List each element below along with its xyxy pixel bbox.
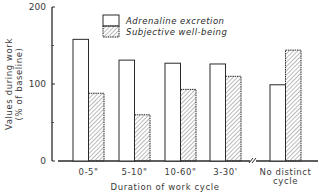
- category-label: 5-10": [121, 167, 147, 177]
- bars: [73, 39, 301, 161]
- bar-chart: 0100200 Values during work (% of baselin…: [0, 0, 319, 195]
- y-tick-label: 0: [40, 156, 46, 166]
- legend-swatch-well-being: [103, 26, 119, 37]
- y-tick-label: 100: [29, 79, 46, 89]
- category-label: 10-60": [164, 167, 196, 177]
- bar-adrenaline: [165, 63, 181, 161]
- y-axis-title: Values during work (% of baseline): [4, 38, 24, 130]
- bar-well-being: [181, 89, 197, 161]
- bar-adrenaline: [210, 64, 226, 161]
- legend-label-adrenaline: Adrenaline excretion: [125, 16, 225, 26]
- bar-group: [210, 64, 241, 161]
- bar-group: [119, 60, 150, 161]
- bar-adrenaline: [73, 39, 89, 161]
- bar-group: [270, 50, 301, 161]
- y-tick-label: 200: [29, 2, 46, 12]
- category-label: 0-5": [78, 167, 98, 177]
- bar-well-being: [226, 76, 242, 161]
- bar-well-being: [89, 93, 105, 161]
- bar-well-being: [286, 50, 302, 161]
- legend-label-well-being: Subjective well-being: [126, 27, 227, 37]
- bar-well-being: [135, 115, 151, 161]
- axis-break-icon: [249, 158, 256, 163]
- legend-swatch-adrenaline: [103, 15, 119, 26]
- y-axis-title-line-1: Values during work: [4, 38, 14, 130]
- bar-group: [165, 63, 196, 161]
- bar-adrenaline: [119, 60, 135, 161]
- y-axis-title-line-2: (% of baseline): [14, 48, 24, 121]
- x-axis-title: Duration of work cycle: [111, 182, 220, 192]
- category-label: cycle: [273, 176, 298, 186]
- bar-adrenaline: [270, 85, 286, 161]
- y-axis: 0100200: [29, 2, 55, 166]
- bar-group: [73, 39, 104, 161]
- category-label: 3-30': [213, 167, 238, 177]
- legend: Adrenaline excretion Subjective well-bei…: [103, 15, 227, 37]
